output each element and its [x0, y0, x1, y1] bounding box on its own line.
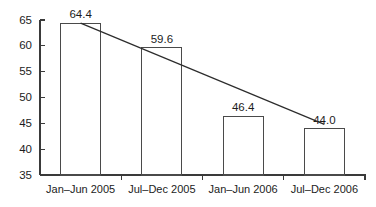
chart-canvas: 3540455055606564.4Jan–Jun 200559.6Jul–De… — [0, 0, 376, 207]
bar-4[interactable] — [304, 129, 344, 176]
bar-3[interactable] — [223, 116, 263, 175]
x-tick-label-4: Jul–Dec 2006 — [291, 183, 358, 195]
y-tick-label: 65 — [19, 14, 32, 26]
bar-value-label-2: 59.6 — [151, 33, 173, 45]
x-tick-label-2: Jul–Dec 2005 — [128, 183, 195, 195]
bar-chart-figure: 3540455055606564.4Jan–Jun 200559.6Jul–De… — [0, 0, 376, 207]
bar-value-label-4: 44.0 — [313, 114, 335, 126]
x-tick-label-3: Jan–Jun 2006 — [209, 183, 278, 195]
y-tick-label: 45 — [19, 117, 32, 129]
y-tick-label: 60 — [19, 39, 32, 51]
bar-value-label-3: 46.4 — [232, 101, 255, 113]
y-tick-label: 35 — [19, 169, 32, 181]
y-tick-label: 40 — [19, 143, 32, 155]
x-tick-label-1: Jan–Jun 2005 — [46, 183, 115, 195]
trend-line — [81, 23, 325, 124]
bar-2[interactable] — [142, 48, 182, 175]
y-tick-label: 55 — [19, 65, 32, 77]
bar-value-label-1: 64.4 — [69, 8, 92, 20]
y-tick-label: 50 — [19, 91, 32, 103]
bar-1[interactable] — [61, 23, 101, 175]
